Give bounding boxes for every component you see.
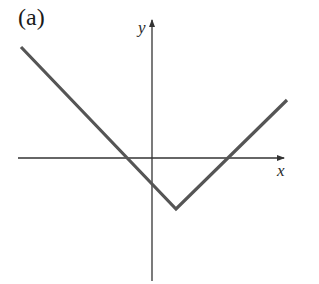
absolute-value-graph: x y	[0, 0, 319, 284]
y-axis-label: y	[136, 18, 146, 37]
v-shaped-curve	[21, 47, 287, 209]
x-axis-label: x	[276, 161, 285, 180]
